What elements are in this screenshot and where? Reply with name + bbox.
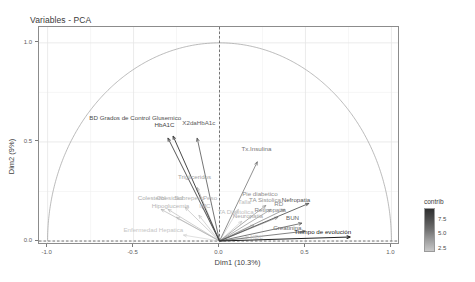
legend-tick-label: 7.5: [438, 216, 446, 222]
y-axis-tick-label: 0.5: [24, 138, 32, 144]
x-axis-tick-label: 1.0: [386, 249, 394, 255]
variable-label: Tiempo de evolución: [294, 229, 351, 235]
page-title: Variables - PCA: [30, 15, 91, 25]
variable-label: Sobrepeso: [174, 195, 204, 201]
contrib-legend: contrib 7.55.02.5: [424, 198, 472, 252]
plot-panel-clip: BD Grados de Control GlusemicoHbA1CX2daH…: [39, 27, 398, 243]
pca-plot-screenshot: Variables - PCA BD Grados de Control Glu…: [0, 0, 475, 282]
variable-label: HbA1C: [155, 122, 175, 128]
y-axis-tick-mark: [35, 140, 38, 141]
variable-label: X2daHbA1c: [182, 120, 215, 126]
x-axis-tick-mark: [304, 244, 305, 247]
y-axis-tick-label: 0.0: [24, 237, 32, 243]
variable-label: IMC: [199, 203, 210, 209]
variable-arrow: [197, 138, 220, 241]
variable-label: Neuropatia: [233, 213, 263, 219]
legend-title: contrib: [424, 198, 472, 205]
legend-tick-label: 5.0: [438, 230, 446, 236]
x-axis-tick-label: 0.5: [300, 249, 308, 255]
variable-label: HDL: [250, 234, 262, 240]
x-axis-tick-mark: [218, 244, 219, 247]
y-axis-tick-label: 1.0: [24, 39, 32, 45]
x-axis-tick-mark: [132, 244, 133, 247]
variable-label: BUN: [286, 215, 299, 221]
y-axis-tick-mark: [35, 41, 38, 42]
variable-label: Nefropatia: [282, 197, 311, 203]
legend-body: 7.55.02.5: [424, 208, 472, 252]
x-axis-tick-mark: [390, 244, 391, 247]
x-axis-tick-label: -1.0: [41, 249, 51, 255]
y-axis-title: Dim2 (9%): [7, 122, 16, 192]
x-axis-tick-mark: [46, 244, 47, 247]
y-axis-tick-mark: [35, 240, 38, 241]
legend-gradient-bar: [424, 208, 435, 252]
x-axis-tick-label: -0.5: [127, 249, 137, 255]
legend-tick-labels: 7.55.02.5: [438, 208, 468, 252]
plot-panel: BD Grados de Control GlusemicoHbA1CX2daH…: [38, 26, 399, 244]
variable-label: Trigliceridos: [178, 174, 211, 180]
variable-label: Hipoglucemia: [152, 203, 190, 209]
x-axis-tick-label: 0.0: [214, 249, 222, 255]
x-axis-title: Dim1 (10.3%): [0, 258, 475, 267]
variable-label: Tx.Insulina: [241, 146, 271, 152]
variable-label: Enfermedad Hepatica: [123, 227, 183, 233]
variable-label: Peso: [203, 195, 217, 201]
legend-tick-label: 2.5: [438, 245, 446, 251]
